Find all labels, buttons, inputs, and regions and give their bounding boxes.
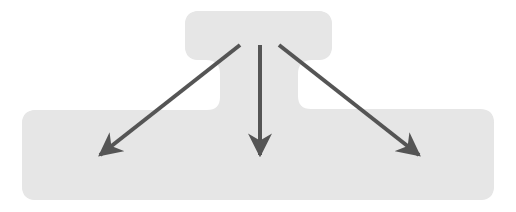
fan-out-diagram	[0, 0, 516, 212]
diagram-canvas	[0, 0, 516, 212]
